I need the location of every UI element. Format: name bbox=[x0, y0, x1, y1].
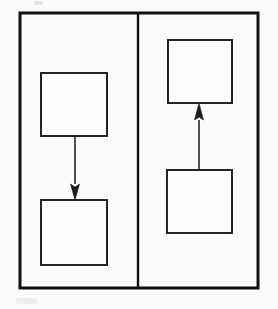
scan-smudge-top-icon bbox=[34, 1, 43, 5]
left-top-box[interactable] bbox=[41, 73, 107, 136]
left-bottom-box[interactable] bbox=[41, 200, 107, 265]
scan-smudge-bottom-left-icon bbox=[16, 298, 38, 304]
figure-root bbox=[0, 0, 278, 309]
right-top-box[interactable] bbox=[168, 40, 232, 103]
figure-canvas bbox=[0, 0, 278, 309]
right-bottom-box[interactable] bbox=[167, 170, 232, 233]
